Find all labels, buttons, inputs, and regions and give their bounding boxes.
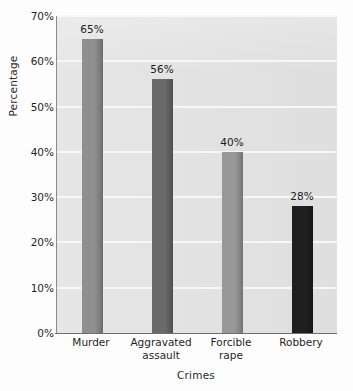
plot-area: 65%56%40%28% (56, 16, 337, 333)
x-axis-line (55, 333, 337, 334)
y-tick-label: 40% (18, 146, 54, 158)
gridline (57, 15, 337, 17)
bar-fill (222, 152, 243, 333)
bar[interactable]: 65% (82, 39, 103, 333)
bar-value-label: 40% (220, 136, 243, 148)
bar-value-label: 65% (80, 23, 103, 35)
y-tick-label: 70% (18, 10, 54, 22)
y-tick-label: 10% (18, 282, 54, 294)
bar[interactable]: 56% (152, 79, 173, 333)
y-axis-tick-labels: 0%10%20%30%40%50%60%70% (18, 0, 54, 391)
bar-fill (292, 206, 313, 333)
x-axis-title: Crimes (56, 369, 336, 381)
x-axis-tick-labels: MurderAggravated assaultForcible rapeRob… (56, 336, 336, 370)
y-tick-label: 20% (18, 236, 54, 248)
x-tick-label: Robbery (279, 336, 323, 349)
bar[interactable]: 40% (222, 152, 243, 333)
x-tick-label: Forcible rape (211, 336, 252, 361)
x-tick-label: Aggravated assault (130, 336, 191, 361)
bar-fill (152, 79, 173, 333)
y-tick-label: 0% (18, 327, 54, 339)
bar-value-label: 28% (290, 190, 313, 202)
bar[interactable]: 28% (292, 206, 313, 333)
y-tick-label: 60% (18, 55, 54, 67)
y-tick-label: 30% (18, 191, 54, 203)
bar-fill (82, 39, 103, 333)
y-tick-label: 50% (18, 101, 54, 113)
x-tick-label: Murder (72, 336, 109, 349)
bar-chart: Percentage 0%10%20%30%40%50%60%70% 65%56… (0, 0, 353, 391)
bar-value-label: 56% (150, 63, 173, 75)
